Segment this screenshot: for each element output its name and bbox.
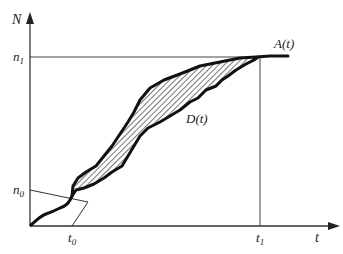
- arrival-curve: [31, 56, 288, 225]
- arrival-curve-label: A(t): [273, 36, 294, 51]
- t1-tick-label: t1: [256, 230, 264, 247]
- queue-area: [72, 57, 256, 196]
- queue-diagram: N t n1 n0 t0 t1 A(t) D(t): [0, 0, 343, 254]
- y-axis-arrow-icon: [26, 12, 34, 24]
- x-axis-arrow-icon: [328, 222, 340, 230]
- departure-curve-label: D(t): [185, 111, 208, 126]
- n0-tick-label: n0: [13, 182, 25, 199]
- x-axis-label: t: [315, 230, 320, 245]
- t0-tick-label: t0: [68, 230, 77, 247]
- y-axis-label: N: [11, 12, 22, 27]
- n1-tick-label: n1: [13, 49, 24, 66]
